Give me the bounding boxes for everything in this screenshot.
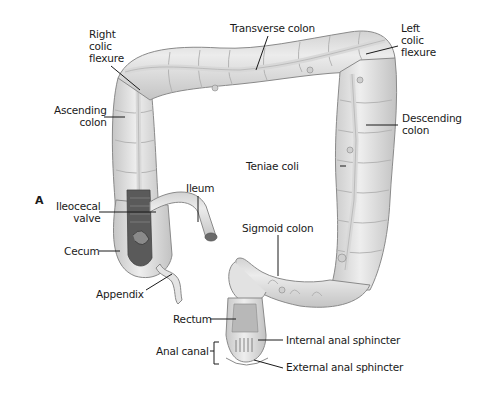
label-rectum: Rectum [173, 313, 212, 325]
panel-letter: A [35, 194, 44, 207]
label-transverse-colon: Transverse colon [230, 22, 315, 34]
colon-illustration [0, 0, 485, 398]
rectum-shape [226, 298, 268, 365]
label-internal-anal-sphincter: Internal anal sphincter [286, 334, 400, 346]
label-anal-canal: Anal canal [156, 345, 209, 357]
descending-colon-shape [330, 58, 397, 290]
label-ascending-colon: Ascending colon [54, 104, 107, 128]
label-left-colic-flexure: Left colic flexure [401, 22, 436, 58]
label-appendix: Appendix [96, 288, 144, 300]
label-teniae-coli: Teniae coli [246, 160, 299, 172]
label-right-colic-flexure: Right colic flexure [89, 28, 124, 64]
label-cecum: Cecum [64, 245, 99, 257]
large-intestine-diagram: A Right colic flexure Transverse colon L… [0, 0, 485, 398]
label-descending-colon: Descending colon [402, 112, 462, 136]
label-external-anal-sphincter: External anal sphincter [286, 361, 403, 373]
label-ileum: Ileum [186, 182, 214, 194]
label-ileocecal-valve: Ileocecal valve [56, 200, 100, 224]
label-sigmoid-colon: Sigmoid colon [242, 222, 313, 234]
appendix-shape [156, 264, 182, 304]
